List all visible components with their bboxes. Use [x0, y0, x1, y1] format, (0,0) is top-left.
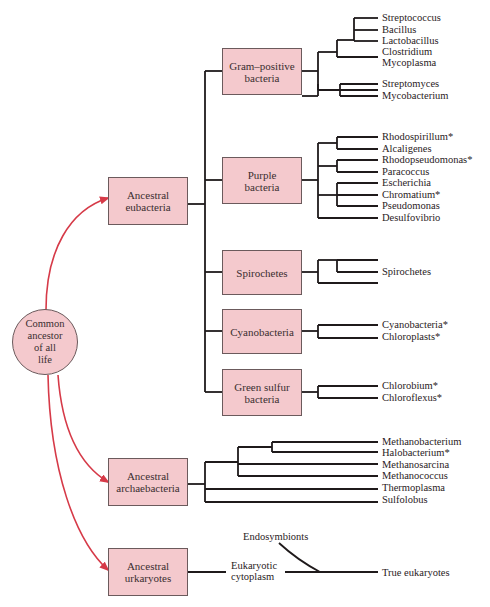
leaf-label: Chromatium* [382, 189, 440, 200]
node-label-line: Gram–positive [229, 60, 294, 72]
arrow-to-urkaryotes [48, 375, 108, 570]
leaf-label: Spirochetes [382, 266, 431, 277]
leaf-label: Rhodopseudomonas* [382, 154, 472, 165]
node-label-line: Purple [245, 169, 280, 181]
leaf-label: Mycoplasma [382, 57, 436, 68]
leaf-label: Methanococcus [382, 470, 448, 481]
node-label-line: Spirochetes [236, 267, 287, 279]
leaf-label: Sulfolobus [382, 494, 428, 505]
endosymbionts-label: Endosymbionts [243, 531, 308, 542]
node-label-line: Cyanobacteria [230, 326, 294, 338]
leaf-label: Desulfovibrio [382, 212, 440, 223]
leaf-label: Cyanobacteria* [382, 319, 448, 330]
leaf-label: Bacillus [382, 24, 416, 35]
leaf-label: Methanobacterium [382, 436, 461, 447]
ancestral-eubacteria-node: Ancestral eubacteria [108, 177, 188, 225]
ancestral-urkaryotes-node: Ancestral urkaryotes [108, 548, 188, 596]
node-label-line: bacteria [234, 393, 289, 405]
leaf-label: Alcaligenes [382, 143, 432, 154]
group-cyanobacteria: Cyanobacteria [222, 309, 302, 354]
leaf-label: Lactobacillus [382, 35, 439, 46]
arrow-to-eubacteria [46, 198, 108, 310]
leaf-label: Rhodospirillum* [382, 131, 453, 142]
node-label-line: bacteria [229, 72, 294, 84]
root-label-line: Common [25, 318, 64, 330]
leaf-label: Chloroflexus* [382, 392, 442, 403]
node-label-line: Ancestral [125, 560, 171, 572]
leaf-label: Mycobacterium [382, 90, 448, 101]
leaf-label: Pseudomonas [382, 200, 440, 211]
common-ancestor-node: Common ancestor of all life [12, 309, 78, 375]
node-label-line: Green sulfur [234, 381, 289, 393]
group-gram-positive: Gram–positive bacteria [222, 48, 302, 95]
cytoplasm-label-line: Eukaryotic [231, 560, 277, 571]
leaf-label: Streptomyces [382, 78, 439, 89]
root-label-line: of all [25, 342, 64, 354]
leaf-label: Streptococcus [382, 12, 441, 23]
leaf-label: Halobacterium* [382, 447, 450, 458]
leaf-label: Chloroplasts* [382, 331, 440, 342]
node-label-line: eubacteria [125, 201, 170, 213]
root-label-line: life [25, 354, 64, 366]
arrow-to-archaebacteria [58, 375, 108, 482]
node-label-line: Ancestral [116, 470, 180, 482]
ancestral-archaebacteria-node: Ancestral archaebacteria [108, 458, 188, 506]
leaf-label: Methanosarcina [382, 459, 449, 470]
group-spirochetes: Spirochetes [222, 250, 302, 295]
node-label-line: urkaryotes [125, 572, 171, 584]
node-label-line: bacteria [245, 181, 280, 193]
cytoplasm-label-line: cytoplasm [231, 571, 277, 582]
group-purple-bacteria: Purple bacteria [222, 157, 302, 204]
node-label-line: Ancestral [125, 189, 170, 201]
leaf-label: Thermoplasma [382, 482, 445, 493]
leaf-label: Clostridium [382, 46, 432, 57]
root-label-line: ancestor [25, 330, 64, 342]
eukaryotic-cytoplasm-label: Eukaryotic cytoplasm [231, 560, 277, 582]
true-eukaryotes-label: True eukaryotes [382, 567, 450, 578]
node-label-line: archaebacteria [116, 482, 180, 494]
leaf-label: Chlorobium* [382, 380, 438, 391]
evolution-arrows [46, 198, 108, 570]
group-green-sulfur: Green sulfur bacteria [222, 369, 302, 416]
leaf-label: Escherichia [382, 177, 431, 188]
leaf-label: Paracoccus [382, 166, 429, 177]
